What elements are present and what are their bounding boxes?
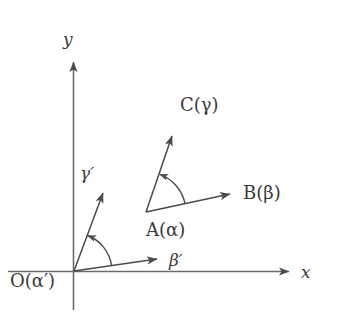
angle-arc-a: [160, 174, 185, 203]
point-b-label: B(β): [243, 184, 281, 202]
angle-arc-origin: [88, 236, 112, 266]
point-a-label: A(α): [146, 221, 185, 239]
beta-prime-vector: [74, 259, 157, 271]
beta-prime-label: β′: [169, 252, 183, 269]
a-to-b-vector: [146, 194, 230, 212]
gamma-prime-label: γ′: [80, 165, 94, 182]
y-axis-label: y: [63, 31, 73, 48]
gamma-prime-vector: [74, 193, 103, 271]
vector-angle-diagram: y x O(α′) γ′ β′ A(α) B(β) C(γ): [0, 0, 337, 323]
point-c-label: C(γ): [180, 96, 219, 114]
origin-label: O(α′): [10, 272, 55, 290]
x-axis-label: x: [301, 264, 311, 281]
a-to-c-vector: [146, 136, 172, 212]
